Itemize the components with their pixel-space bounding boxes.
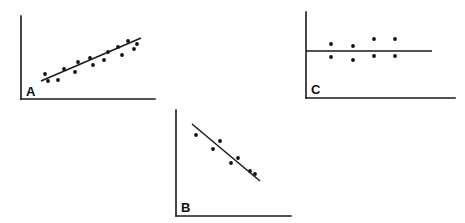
data-point (229, 161, 233, 165)
data-point (393, 37, 397, 41)
data-point (194, 133, 198, 137)
data-point (132, 47, 136, 51)
panel-a-trend-line (41, 38, 141, 81)
data-point (76, 60, 80, 64)
panel-b-label: B (181, 200, 190, 215)
data-point (393, 54, 397, 58)
panel-a-positive-correlation: A (21, 16, 155, 99)
data-point (135, 42, 139, 46)
data-point (218, 139, 222, 143)
panel-c-no-correlation: C (306, 12, 455, 98)
panel-c-data-points (329, 37, 397, 62)
data-point (56, 78, 60, 82)
data-point (372, 37, 376, 41)
data-point (351, 44, 355, 48)
data-point (329, 42, 333, 46)
data-point (102, 58, 106, 62)
panel-b-data-points (194, 133, 257, 176)
panel-c-label: C (311, 82, 321, 97)
scatterplot-figure: A B C (0, 0, 465, 223)
data-point (211, 147, 215, 151)
data-point (46, 79, 50, 83)
data-point (351, 58, 355, 62)
data-point (73, 70, 77, 74)
data-point (120, 53, 124, 57)
panel-b-trend-line (192, 124, 260, 181)
panel-a-label: A (26, 84, 36, 99)
figure-container: A B C (0, 0, 465, 223)
data-point (91, 63, 95, 67)
data-point (43, 72, 47, 76)
data-point (372, 54, 376, 58)
data-point (329, 55, 333, 59)
data-point (236, 156, 240, 160)
panel-b-negative-correlation: B (176, 110, 291, 216)
